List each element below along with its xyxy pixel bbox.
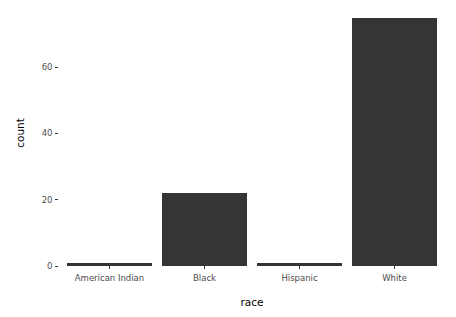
x-axis-tick: Black	[157, 266, 252, 283]
x-axis-tick: American Indian	[62, 266, 157, 283]
bar-chart: count 0204060 American IndianBlackHispan…	[0, 0, 456, 317]
y-axis-tick-label: 0	[47, 262, 52, 271]
x-axis-tick-label: Hispanic	[252, 274, 347, 283]
y-axis-tick-label: 60	[42, 63, 53, 72]
y-axis-tick-mark	[55, 266, 58, 267]
x-axis-tick-label: American Indian	[62, 274, 157, 283]
x-axis-tick-mark	[109, 266, 110, 269]
x-axis-title: race	[62, 296, 442, 308]
x-axis-tick-mark	[299, 266, 300, 269]
x-axis-tick: Hispanic	[252, 266, 347, 283]
y-axis: 0204060	[0, 0, 62, 317]
x-axis-tick-mark	[204, 266, 205, 269]
x-axis: American IndianBlackHispanicWhite	[62, 266, 442, 292]
x-axis-tick: White	[347, 266, 442, 283]
y-axis-tick-label: 40	[42, 129, 53, 138]
y-axis-tick-label: 20	[42, 196, 53, 205]
y-axis-tick-mark	[55, 133, 58, 134]
bar	[352, 18, 438, 266]
bar	[162, 193, 248, 266]
x-axis-tick-mark	[394, 266, 395, 269]
plot-panel	[62, 8, 442, 266]
x-axis-tick-label: White	[347, 274, 442, 283]
y-axis-tick-mark	[55, 67, 58, 68]
x-axis-tick-label: Black	[157, 274, 252, 283]
y-axis-tick-mark	[55, 199, 58, 200]
